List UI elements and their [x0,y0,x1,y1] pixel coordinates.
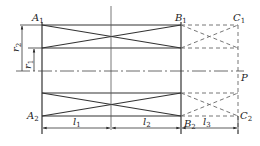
cylinder-winding-diagram: A1 B1 C1 A2 B2 C2 P r2 r1 l1 l2 l3 [0,0,260,146]
label-r2: r2 [10,43,23,52]
label-a1: A1 [31,12,44,25]
label-c2: C2 [240,110,252,123]
label-l1: l1 [73,116,81,129]
label-a2: A2 [26,110,39,123]
label-l2: l2 [143,116,151,129]
label-c1: C1 [233,12,245,25]
label-r1: r1 [22,60,35,69]
label-b2: B2 [183,118,196,131]
label-p: P [240,72,248,83]
solid-frame [42,22,181,134]
label-l3: l3 [203,116,211,129]
